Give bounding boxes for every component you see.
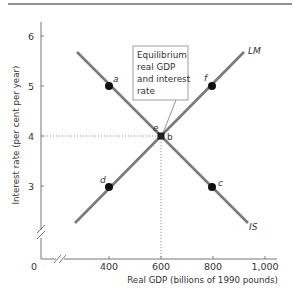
point-f-label: f	[204, 73, 209, 83]
point-a	[105, 82, 113, 90]
point-c	[208, 183, 216, 191]
y-axis	[37, 22, 45, 259]
x-tick-label-400: 400	[100, 261, 118, 272]
x-tick-label-0: 0	[31, 261, 37, 272]
lm-curve-label: LM	[248, 46, 261, 56]
annotation-line-1: Equilibrium	[137, 50, 187, 60]
annotation-line-2: real GDP	[137, 62, 175, 72]
y-tick-label-4: 4	[28, 131, 34, 142]
point-a-label: a	[113, 74, 119, 84]
point-b-label: b	[167, 132, 173, 142]
x-tick-label-600: 600	[152, 261, 170, 272]
point-d-label: d	[100, 175, 106, 185]
y-tick-label-3: 3	[28, 181, 34, 192]
x-tick-label-800: 800	[204, 261, 222, 272]
x-tick-label-1000: 1,000	[251, 261, 278, 272]
equilibrium-annotation: Equilibrium real GDP and interest rate	[133, 46, 191, 133]
point-c-label: c	[218, 178, 223, 188]
annotation-line-3: and interest	[137, 74, 191, 84]
point-equilibrium	[158, 133, 165, 140]
y-tick-label-5: 5	[28, 81, 34, 92]
point-f	[208, 82, 216, 90]
chart: 6 5 4 3 Interest rate (per cent per year…	[0, 0, 293, 299]
annotation-line-4: rate	[137, 86, 155, 96]
y-tick-label-6: 6	[28, 31, 34, 42]
y-axis-title: Interest rate (per cent per year)	[11, 66, 21, 205]
x-axis-title: Real GDP (billions of 1990 pounds)	[127, 275, 278, 285]
point-e-label: e	[153, 123, 159, 133]
point-d	[105, 183, 113, 191]
is-curve-label: IS	[249, 222, 258, 232]
